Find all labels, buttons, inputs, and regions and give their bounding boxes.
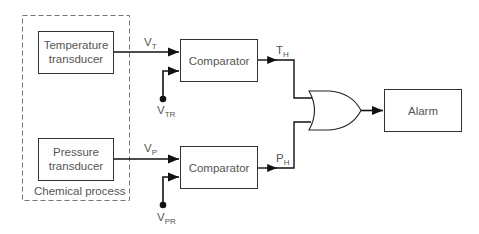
pressure-transducer-label-1: Pressure	[53, 146, 99, 158]
temperature-transducer-label-1: Temperature	[44, 39, 109, 51]
temperature-transducer-label-2: transducer	[49, 53, 104, 65]
vpr-label: VPR	[157, 211, 176, 226]
vt-label: VT	[144, 36, 157, 51]
th-signal-line	[276, 60, 312, 98]
vp-label: VP	[144, 142, 157, 157]
or-gate	[309, 91, 361, 130]
th-label: TH	[276, 44, 289, 59]
comparator-bottom-label: Comparator	[189, 162, 250, 174]
vtr-label: VTR	[157, 104, 176, 119]
alarm-label: Alarm	[408, 105, 438, 117]
block-diagram: Chemical process Temperature transducer …	[0, 0, 479, 234]
vpr-terminal-dot	[160, 202, 167, 209]
vtr-terminal-dot	[160, 96, 167, 103]
vtr-signal-line	[163, 71, 179, 99]
ph-label: PH	[276, 152, 290, 167]
chemical-process-label: Chemical process	[34, 185, 126, 197]
pressure-transducer-label-2: transducer	[49, 160, 104, 172]
vpr-signal-line	[163, 177, 179, 205]
comparator-top-label: Comparator	[189, 55, 250, 67]
